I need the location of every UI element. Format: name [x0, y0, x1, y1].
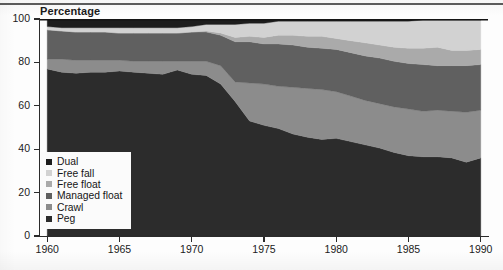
y-tick-80 [34, 62, 40, 63]
legend-item-free-float[interactable]: Free float [46, 179, 122, 190]
x-tick-label-1990: 1990 [469, 243, 492, 255]
y-tick-label-0: 0 [0, 229, 30, 241]
y-tick-60 [34, 105, 40, 106]
y-tick-label-100: 100 [0, 12, 30, 24]
y-tick-label-20: 20 [0, 186, 30, 198]
y-tick-40 [34, 149, 40, 150]
legend-swatch-icon [46, 193, 52, 199]
legend-swatch-icon [46, 204, 52, 210]
legend-item-managed-float[interactable]: Managed float [46, 190, 122, 201]
legend-item-label: Crawl [57, 202, 83, 213]
x-tick-1985 [408, 237, 409, 242]
legend-item-dual[interactable]: Dual [46, 156, 122, 167]
y-tick-label-40: 40 [0, 142, 30, 154]
x-tick-label-1970: 1970 [180, 243, 203, 255]
x-tick-1990 [480, 237, 481, 242]
x-tick-1970 [191, 237, 192, 242]
legend-swatch-icon [46, 216, 52, 222]
x-tick-label-1985: 1985 [397, 243, 420, 255]
x-tick-1975 [263, 237, 264, 242]
legend-swatch-icon [46, 170, 52, 176]
legend-item-label: Free float [57, 179, 101, 190]
legend-item-crawl[interactable]: Crawl [46, 202, 122, 213]
y-tick-0 [34, 235, 40, 236]
legend-item-free-fall[interactable]: Free fall [46, 167, 122, 178]
x-tick-label-1965: 1965 [108, 243, 131, 255]
x-tick-1965 [119, 237, 120, 242]
legend-swatch-icon [46, 181, 52, 187]
y-tick-label-60: 60 [0, 99, 30, 111]
legend-swatch-icon [46, 159, 52, 165]
chart-legend: DualFree fallFree floatManaged floatCraw… [41, 152, 131, 229]
y-axis-title: Percentage [40, 5, 100, 17]
chart-figure: Percentage 020406080100 1960196519701975… [0, 0, 503, 270]
x-tick-label-1980: 1980 [325, 243, 348, 255]
legend-item-label: Peg [57, 213, 75, 224]
y-tick-100 [34, 18, 40, 19]
y-tick-label-80: 80 [0, 55, 30, 67]
legend-item-peg[interactable]: Peg [46, 213, 122, 224]
legend-item-label: Managed float [57, 190, 122, 201]
x-tick-label-1960: 1960 [36, 243, 59, 255]
y-tick-20 [34, 192, 40, 193]
x-tick-label-1975: 1975 [252, 243, 275, 255]
legend-item-label: Dual [57, 156, 78, 167]
x-tick-1960 [47, 237, 48, 242]
legend-item-label: Free fall [57, 168, 94, 179]
x-tick-1980 [336, 237, 337, 242]
